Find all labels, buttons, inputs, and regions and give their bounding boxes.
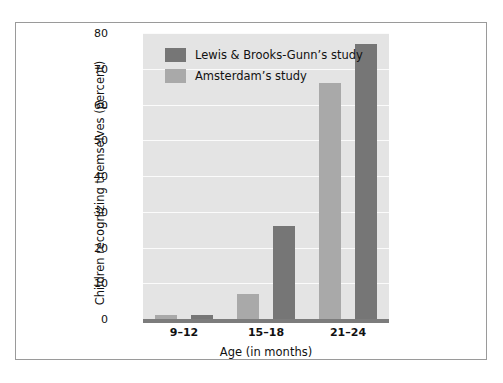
legend-label: Lewis & Brooks-Gunn’s study xyxy=(195,48,363,62)
x-axis-line xyxy=(143,319,389,323)
bar xyxy=(237,294,259,319)
legend-label: Amsterdam’s study xyxy=(195,69,307,83)
legend: Lewis & Brooks-Gunn’s studyAmsterdam’s s… xyxy=(165,44,363,86)
bar xyxy=(319,83,341,319)
plot-area: Lewis & Brooks-Gunn’s studyAmsterdam’s s… xyxy=(143,33,389,319)
gridline xyxy=(143,140,389,141)
legend-item: Amsterdam’s study xyxy=(165,65,363,86)
y-axis-tick-label: 80 xyxy=(74,28,108,39)
gridline xyxy=(143,33,389,34)
x-axis-tick-label: 9–12 xyxy=(143,326,225,339)
y-axis-title: Children recognizing themselves (percent… xyxy=(93,43,107,323)
legend-swatch-icon xyxy=(165,48,186,62)
gridline xyxy=(143,283,389,284)
figure-frame: Lewis & Brooks-Gunn’s studyAmsterdam’s s… xyxy=(15,22,487,360)
legend-item: Lewis & Brooks-Gunn’s study xyxy=(165,44,363,65)
x-axis-tick-label: 15–18 xyxy=(225,326,307,339)
bar-chart: Lewis & Brooks-Gunn’s studyAmsterdam’s s… xyxy=(16,23,488,361)
gridline xyxy=(143,212,389,213)
gridline xyxy=(143,105,389,106)
gridline xyxy=(143,176,389,177)
bar xyxy=(273,226,295,319)
x-axis-tick-label: 21–24 xyxy=(307,326,389,339)
legend-swatch-icon xyxy=(165,69,186,83)
gridline xyxy=(143,248,389,249)
x-axis-title: Age (in months) xyxy=(143,345,389,359)
